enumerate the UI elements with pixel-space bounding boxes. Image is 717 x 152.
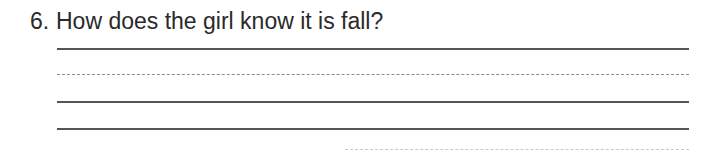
- answer-midline-dashed: [57, 74, 689, 75]
- answer-baseline[interactable]: [57, 101, 689, 103]
- question-number: 6.: [30, 6, 56, 36]
- question-prompt: 6.How does the girl know it is fall?: [30, 6, 383, 36]
- question-text: How does the girl know it is fall?: [56, 8, 383, 34]
- answer-line-top[interactable]: [57, 48, 689, 50]
- next-dashed-line-partial: [345, 149, 689, 150]
- answer-line-bottom[interactable]: [57, 128, 689, 130]
